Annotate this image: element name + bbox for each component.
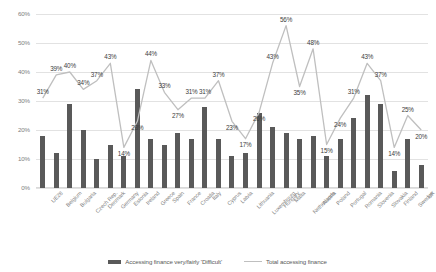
line-value-label: 43% [361, 53, 373, 60]
line-value-label: 14% [388, 150, 400, 157]
y-axis-tick-label: 10% [0, 155, 30, 162]
line-value-label: 48% [307, 39, 319, 46]
line-value-label: 15% [321, 147, 333, 154]
line-value-label: 20% [415, 133, 427, 140]
y-axis-tick-label: 0% [0, 184, 30, 191]
y-axis-tick-label: 20% [0, 126, 30, 133]
line-value-label: 26% [253, 115, 265, 122]
x-axis-labels: UE28BelgiumBulgariaCzech Rep.DenmarkGerm… [36, 190, 428, 246]
y-axis-tick-label: 40% [0, 68, 30, 75]
legend-label-bar-series: Accessing finance very/fairly 'Difficult… [125, 258, 222, 265]
line-value-label: 25% [402, 106, 414, 113]
x-axis-tick-label: Latvia [239, 190, 253, 204]
line-value-label: 31% [185, 88, 197, 95]
line-path-svg [36, 14, 428, 188]
x-axis-tick-label: Lithuania [255, 190, 275, 210]
x-axis-tick-label: UE28 [50, 190, 64, 204]
y-axis-tick-label: 30% [0, 97, 30, 104]
line-value-label: 56% [280, 16, 292, 23]
line-value-label: 37% [375, 71, 387, 78]
y-axis-tick-label: 60% [0, 10, 30, 17]
line-value-label: 27% [172, 112, 184, 119]
line-value-label: 37% [212, 71, 224, 78]
x-axis-tick-label: Austria [321, 190, 337, 206]
line-value-label: 37% [91, 71, 103, 78]
legend-item-bar-series: Accessing finance very/fairly 'Difficult… [108, 258, 222, 265]
legend-item-line-series: Total accessing finance [244, 258, 327, 265]
gridline [36, 188, 428, 189]
bar-swatch-icon [108, 260, 121, 264]
line-value-label: 43% [104, 53, 116, 60]
line-value-label: 44% [145, 50, 157, 57]
line-swatch-icon [244, 261, 262, 262]
line-value-label: 31% [348, 88, 360, 95]
line-value-label: 34% [77, 79, 89, 86]
y-axis-tick-label: 50% [0, 39, 30, 46]
line-value-label: 33% [158, 82, 170, 89]
line-value-label: 35% [294, 89, 306, 96]
line-series-layer [36, 14, 428, 188]
line-value-label: 43% [267, 53, 279, 60]
plot-area: 31%39%40%34%37%43%14%23%44%33%27%31%31%3… [36, 14, 428, 188]
line-value-label: 23% [131, 124, 143, 131]
chart-legend: Accessing finance very/fairly 'Difficult… [0, 258, 435, 265]
line-value-label: 40% [64, 62, 76, 69]
line-value-label: 24% [334, 121, 346, 128]
line-value-label: 31% [37, 88, 49, 95]
line-value-label: 23% [226, 124, 238, 131]
line-value-label: 39% [50, 65, 62, 72]
legend-label-line-series: Total accessing finance [266, 258, 327, 265]
line-value-label: 31% [199, 88, 211, 95]
line-value-label: 17% [240, 141, 252, 148]
line-value-label: 14% [118, 150, 130, 157]
